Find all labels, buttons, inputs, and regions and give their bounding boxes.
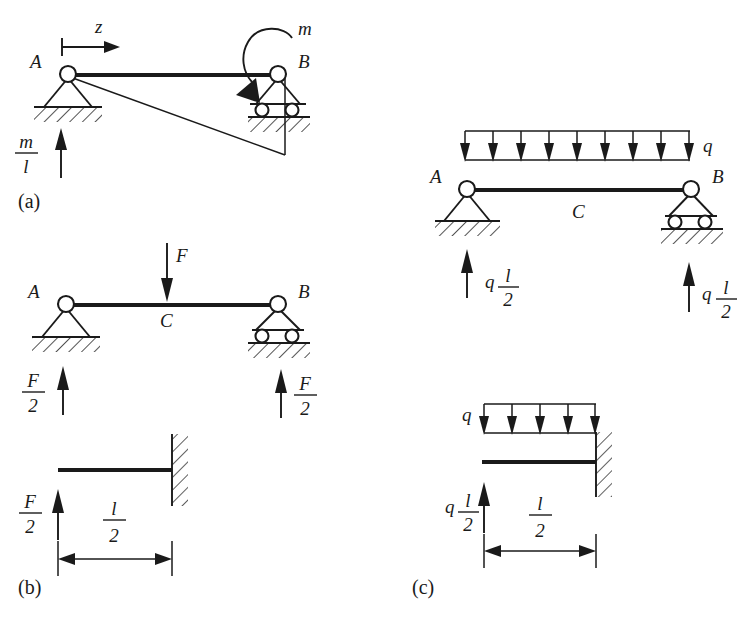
- reaction-c-left-numerator: l: [505, 265, 510, 286]
- reaction-c-right-denominator: 2: [721, 301, 731, 322]
- fixed-wall-c: [596, 432, 612, 497]
- reaction-b-left-numerator: F: [26, 370, 39, 391]
- panel-label-a: (a): [18, 190, 40, 213]
- reaction-c-left-coef: q: [485, 271, 495, 292]
- fixed-wall-b: [172, 434, 188, 506]
- cantilever-reaction-c-denominator: 2: [463, 514, 473, 535]
- reaction-c-right-coef: q: [702, 283, 712, 304]
- reaction-b-left-denominator: 2: [28, 395, 38, 416]
- moment-label-m: m: [298, 18, 312, 39]
- pin-hinge-a: [60, 66, 76, 82]
- reaction-c-right-numerator: l: [723, 277, 728, 298]
- cantilever-reaction-b-numerator: F: [23, 491, 36, 512]
- node-label-b-c: C: [160, 310, 173, 331]
- z-axis-label: z: [94, 16, 103, 37]
- dimension-b-numerator: l: [111, 498, 116, 519]
- reaction-a-numerator: m: [19, 131, 33, 152]
- cantilever-reaction-c-coef: q: [445, 496, 455, 517]
- pin-hinge-b-panel: [58, 296, 74, 312]
- udl-label-c-bottom: q: [462, 404, 472, 425]
- reaction-b-right-numerator: F: [298, 373, 311, 394]
- node-label-c-c: C: [572, 201, 585, 222]
- cantilever-reaction-b-denominator: 2: [25, 516, 35, 537]
- node-label-b-a: A: [26, 281, 40, 302]
- node-label-b-b: B: [298, 281, 310, 302]
- figure-canvas: z A B: [0, 0, 753, 619]
- cantilever-reaction-c-numerator: l: [465, 490, 470, 511]
- panel-label-c: (c): [412, 576, 434, 599]
- reaction-a-denominator: l: [23, 156, 28, 177]
- reaction-b-right-denominator: 2: [300, 398, 310, 419]
- pin-hinge-c: [459, 181, 475, 197]
- roller-hinge-b-panel: [270, 296, 286, 312]
- dimension-b-denominator: 2: [109, 525, 119, 546]
- roller-hinge-c: [683, 181, 699, 197]
- node-label-c-b: B: [712, 166, 724, 187]
- dimension-c-numerator: l: [537, 493, 542, 514]
- engineering-figure: z A B: [0, 0, 753, 619]
- panel-label-b: (b): [18, 576, 41, 599]
- reaction-c-left-denominator: 2: [503, 289, 513, 310]
- udl-label-c-top: q: [703, 135, 713, 156]
- dimension-c-denominator: 2: [535, 520, 545, 541]
- roller-hinge-b: [270, 66, 286, 82]
- node-label-b: B: [298, 51, 310, 72]
- node-label-c-a: A: [428, 166, 442, 187]
- load-label-f: F: [175, 245, 188, 266]
- node-label-a: A: [28, 51, 42, 72]
